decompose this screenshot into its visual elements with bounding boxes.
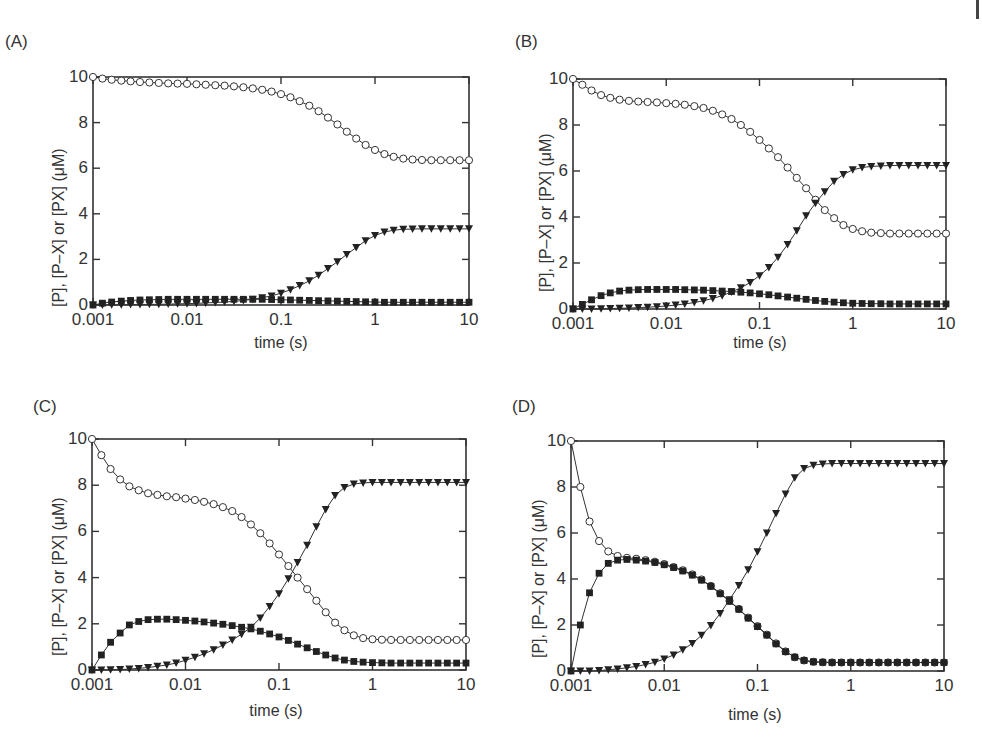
marker-filled-square <box>885 659 892 666</box>
marker-filled-square <box>661 561 668 568</box>
marker-filled-triangle <box>754 548 762 556</box>
marker-filled-square <box>847 659 854 666</box>
marker-filled-square <box>763 632 770 639</box>
marker-filled-square <box>754 623 761 630</box>
y-tick-label: 2 <box>536 615 566 635</box>
y-tick-label: 6 <box>536 523 566 543</box>
marker-filled-square <box>652 559 659 566</box>
marker-filled-square <box>689 572 696 579</box>
marker-filled-triangle <box>660 656 668 664</box>
marker-filled-square <box>577 622 584 629</box>
marker-filled-square <box>614 557 621 564</box>
marker-filled-square <box>894 659 901 666</box>
marker-filled-square <box>931 659 938 666</box>
marker-filled-square <box>922 659 929 666</box>
marker-filled-square <box>773 640 780 647</box>
marker-filled-square <box>791 654 798 661</box>
marker-filled-square <box>819 659 826 666</box>
x-axis-title-d: time (s) <box>655 706 855 724</box>
marker-filled-square <box>698 577 705 584</box>
marker-filled-square <box>679 568 686 575</box>
marker-filled-square <box>941 659 948 666</box>
marker-filled-square <box>633 557 640 564</box>
marker-open-circle <box>577 483 584 490</box>
marker-filled-square <box>913 659 920 666</box>
marker-filled-square <box>801 657 808 664</box>
marker-filled-square <box>624 556 631 563</box>
marker-filled-triangle <box>670 651 678 659</box>
y-tick-label: 8 <box>536 477 566 497</box>
x-tick-label: 1 <box>821 676 881 696</box>
x-tick-label: 0.01 <box>634 676 694 696</box>
marker-open-circle <box>595 537 602 544</box>
y-tick-label: 10 <box>536 431 566 451</box>
marker-filled-triangle <box>744 566 752 574</box>
marker-filled-square <box>782 648 789 655</box>
marker-filled-square <box>605 560 612 567</box>
series-px <box>567 460 948 675</box>
x-tick-label: 10 <box>914 676 974 696</box>
marker-filled-square <box>642 558 649 565</box>
y-tick-label: 4 <box>536 569 566 589</box>
marker-filled-triangle <box>679 646 687 654</box>
marker-filled-square <box>829 659 836 666</box>
x-tick-label: 0.1 <box>728 676 788 696</box>
marker-open-circle <box>567 437 574 444</box>
marker-open-circle <box>586 518 593 525</box>
marker-filled-triangle <box>791 474 799 482</box>
marker-filled-square <box>735 606 742 613</box>
marker-filled-square <box>707 583 714 590</box>
marker-filled-square <box>810 658 817 665</box>
marker-filled-square <box>596 570 603 577</box>
marker-filled-square <box>866 659 873 666</box>
plot-area-d <box>0 0 982 751</box>
y-tick-label: 0 <box>536 661 566 681</box>
marker-filled-square <box>857 659 864 666</box>
marker-filled-triangle <box>735 582 743 590</box>
series-p-x <box>568 556 948 674</box>
marker-filled-triangle <box>772 510 780 518</box>
marker-filled-square <box>586 589 593 596</box>
marker-filled-triangle <box>782 490 790 498</box>
marker-filled-square <box>670 564 677 571</box>
marker-filled-square <box>903 659 910 666</box>
marker-filled-square <box>875 659 882 666</box>
marker-filled-triangle <box>688 640 696 648</box>
marker-filled-triangle <box>763 530 771 538</box>
marker-filled-square <box>717 590 724 597</box>
marker-open-circle <box>605 548 612 555</box>
marker-filled-triangle <box>809 462 817 470</box>
marker-filled-square <box>745 615 752 622</box>
marker-filled-square <box>838 659 845 666</box>
